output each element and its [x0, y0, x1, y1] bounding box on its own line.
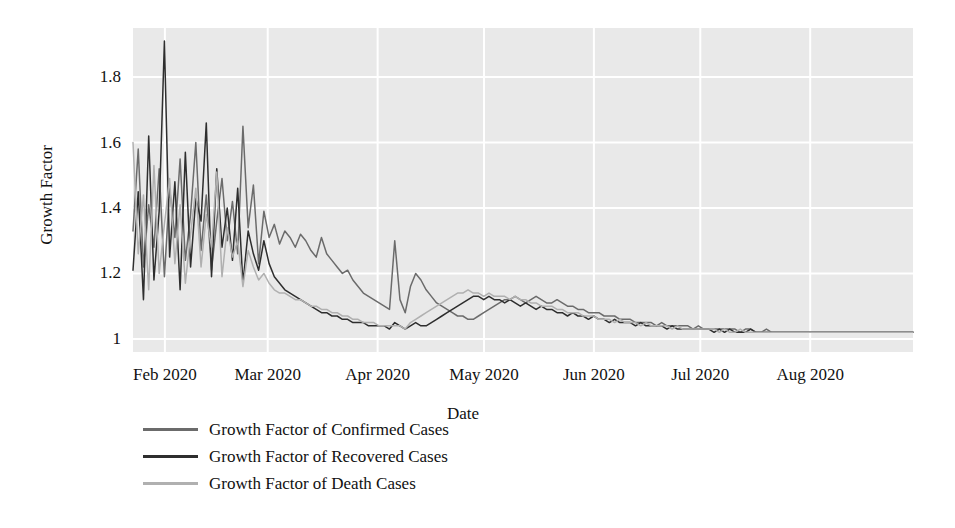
- legend-line-swatch: [143, 455, 198, 458]
- growth-factor-chart-figure: Growth Factor Date 11.21.41.61.8 Feb 202…: [0, 0, 955, 528]
- y-tick-label: 1: [47, 330, 121, 347]
- y-tick-label: 1.6: [47, 134, 121, 151]
- x-tick-label: Jun 2020: [534, 366, 654, 383]
- x-tick-label: Aug 2020: [750, 366, 870, 383]
- x-tick-label: Mar 2020: [208, 366, 328, 383]
- x-tick-label: Jul 2020: [640, 366, 760, 383]
- legend-item[interactable]: Growth Factor of Confirmed Cases: [143, 416, 449, 443]
- y-tick-label: 1.2: [47, 264, 121, 281]
- legend-item-label: Growth Factor of Death Cases: [209, 475, 416, 492]
- legend-item[interactable]: Growth Factor of Death Cases: [143, 470, 449, 497]
- y-tick-label: 1.4: [47, 199, 121, 216]
- legend-line-swatch: [143, 482, 198, 485]
- legend-item-label: Growth Factor of Recovered Cases: [209, 448, 448, 465]
- legend-line-swatch: [143, 428, 198, 431]
- legend-item-label: Growth Factor of Confirmed Cases: [209, 421, 449, 438]
- x-tick-label: May 2020: [424, 366, 544, 383]
- x-tick-label: Apr 2020: [318, 366, 438, 383]
- legend-item[interactable]: Growth Factor of Recovered Cases: [143, 443, 449, 470]
- y-tick-label: 1.8: [47, 68, 121, 85]
- chart-legend: Growth Factor of Confirmed CasesGrowth F…: [143, 416, 449, 497]
